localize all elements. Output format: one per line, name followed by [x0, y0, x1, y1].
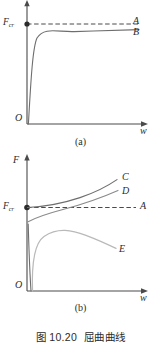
chart-b-label-E: E [119, 244, 125, 254]
chart-a-critical-load-label: Fcr [3, 18, 14, 28]
chart-b-caption: (b) [0, 302, 161, 313]
chart-a-label-A: A [133, 16, 139, 26]
chart-a-series-B-curve [28, 30, 139, 124]
chart-b-label-C: C [122, 172, 129, 182]
figure-caption-title: 屈曲曲线 [84, 331, 125, 343]
chart-b-series-C-curve [28, 180, 118, 208]
chart-b-label-A: A [140, 201, 146, 211]
chart-a-origin-label: O [15, 113, 22, 123]
chart-a-caption: (a) [0, 136, 161, 147]
chart-b-y-axis-arrow [24, 154, 29, 161]
chart-a-y-axis-arrow [24, 0, 29, 6]
chart-b-lower-branch-segment [28, 224, 31, 291]
figure-caption: 图 10.20屈曲曲线 [0, 329, 161, 344]
chart-b-plot [0, 150, 161, 315]
chart-b-origin-label: O [15, 280, 22, 290]
chart-a-critical-point-marker [24, 21, 29, 26]
chart-a-x-axis-label: w [140, 126, 147, 136]
figure-caption-number: 图 10.20 [36, 331, 77, 343]
figure-buckling-curves: Fcr A B O w (a) Fcr F [0, 0, 161, 351]
chart-panel-a: Fcr A B O w (a) [0, 0, 161, 150]
chart-panel-b: Fcr F C D A E O w (b) [0, 150, 161, 315]
chart-b-series-E-curve [32, 230, 116, 291]
chart-a-label-B: B [133, 27, 139, 37]
chart-b-label-D: D [122, 186, 129, 196]
chart-b-y-axis-label: F [13, 155, 19, 165]
chart-b-critical-load-label: Fcr [3, 202, 14, 212]
